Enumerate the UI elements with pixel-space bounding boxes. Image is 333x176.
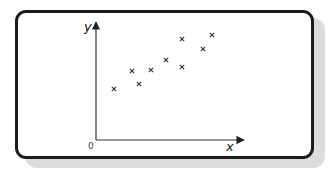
data-points [112,33,214,91]
data-point-marker [164,58,168,62]
data-point-marker [130,69,134,73]
data-point-marker [210,33,214,37]
origin-label: 0 [88,142,94,151]
data-point-marker [201,47,205,51]
y-axis-label: y [84,20,92,33]
scatter-plot [0,0,333,176]
x-axis-label: x [226,140,234,153]
data-point-marker [112,87,116,91]
data-point-marker [137,82,141,86]
data-point-marker [180,37,184,41]
data-point-marker [149,68,153,72]
data-point-marker [180,65,184,69]
